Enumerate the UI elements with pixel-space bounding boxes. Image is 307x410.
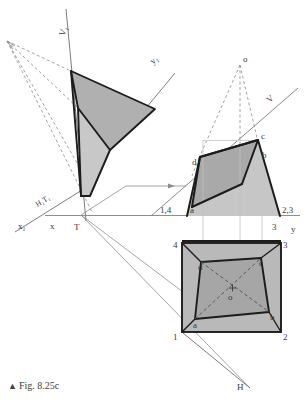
label-front-left-base: 1,4 xyxy=(160,205,172,215)
figure-caption: ▲Fig. 8.25c xyxy=(8,380,59,391)
label-plan-d: d xyxy=(198,262,203,272)
label-plan-a: a xyxy=(193,320,197,330)
label-t-point: T xyxy=(74,222,80,232)
caption-text: Fig. 8.25c xyxy=(19,380,59,391)
aux-ray-2 xyxy=(7,41,78,108)
label-front-d: d xyxy=(192,157,197,167)
label-h-trace: H xyxy=(237,382,244,392)
label-x-axis: x xyxy=(50,221,55,231)
label-o-apex: o xyxy=(243,54,248,64)
technical-drawing-canvas: V₁ y₁ H₁T₁ x₁ x T V y H o d b c a 1,4 2,… xyxy=(0,0,307,410)
label-plan-2: 2 xyxy=(283,332,288,342)
label-x1-axis: x₁ xyxy=(18,221,26,231)
label-front-c: c xyxy=(261,131,265,141)
h-trace-line xyxy=(183,333,250,388)
figure-page: V₁ y₁ H₁T₁ x₁ x T V y H o d b c a 1,4 2,… xyxy=(0,0,307,410)
caption-triangle-icon: ▲ xyxy=(8,381,17,391)
label-plan-o: o xyxy=(228,292,233,302)
label-front-right-base: 2,3 xyxy=(282,205,294,215)
label-plan-1: 1 xyxy=(173,332,178,342)
label-h1t1-trace: H₁T₁ xyxy=(34,193,52,209)
label-plan-b: b xyxy=(270,312,275,322)
label-v-axis: V xyxy=(264,93,276,105)
plan-inner-quad-fill xyxy=(195,258,269,319)
label-y1-axis: y₁ xyxy=(148,53,160,66)
label-plan-3: 3 xyxy=(283,240,288,250)
label-plan-4: 4 xyxy=(173,240,178,250)
aux-ray-1 xyxy=(7,41,71,71)
label-front-b: b xyxy=(262,150,267,160)
label-front-a: a xyxy=(190,205,194,215)
label-plan-c: c xyxy=(259,258,263,268)
label-front-base-right-small: 3 xyxy=(272,222,277,232)
label-y-axis: y xyxy=(291,224,296,234)
